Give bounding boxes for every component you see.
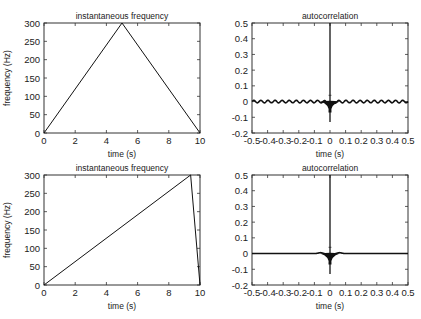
y-tick-label: 250 <box>24 36 40 47</box>
x-tick-label: 0.2 <box>355 135 368 146</box>
x-tick-label: -0.3 <box>275 287 291 298</box>
y-tick-label: 0.4 <box>235 33 248 44</box>
x-tick-label: -0.2 <box>291 287 307 298</box>
y-axis-label: frequency (Hz) <box>2 202 12 258</box>
chart-title: autocorrelation <box>302 163 359 173</box>
x-tick-label: 0 <box>41 287 46 298</box>
y-tick-label: -0.2 <box>232 128 248 139</box>
x-tick-label: 0 <box>41 135 46 146</box>
y-tick-label: 0.3 <box>235 49 248 60</box>
x-tick-label: -0.1 <box>306 287 322 298</box>
x-tick-label: 0.1 <box>339 287 352 298</box>
x-axis-label: time (s) <box>316 301 345 311</box>
x-tick-label: 6 <box>135 287 140 298</box>
x-tick-label: 0.1 <box>339 135 352 146</box>
y-tick-label: 0.1 <box>235 80 248 91</box>
x-tick-label: 0.3 <box>370 135 383 146</box>
x-tick-label: 8 <box>166 287 171 298</box>
x-tick-label: 2 <box>73 135 78 146</box>
autocorrelation-lobe <box>320 101 340 113</box>
y-tick-label: 0.5 <box>235 18 248 29</box>
y-tick-label: 0.2 <box>235 217 248 228</box>
y-axis-label: frequency (Hz) <box>2 50 12 106</box>
chart-panel-3: instantaneous frequency02468100501001502… <box>2 163 205 311</box>
x-tick-label: 0.3 <box>370 287 383 298</box>
y-tick-label: 0 <box>35 280 40 291</box>
x-tick-label: 0.5 <box>401 287 414 298</box>
x-tick-label: 4 <box>104 135 109 146</box>
x-tick-label: -0.4 <box>259 287 275 298</box>
x-axis-label: time (s) <box>316 149 345 159</box>
frequency-line <box>44 175 200 285</box>
y-tick-label: 0 <box>243 96 248 107</box>
x-tick-label: 0.4 <box>386 287 399 298</box>
chart-title: autocorrelation <box>302 11 359 21</box>
x-tick-label: 10 <box>195 287 206 298</box>
y-tick-label: 300 <box>24 170 40 181</box>
x-tick-label: 10 <box>195 135 206 146</box>
x-tick-label: 2 <box>73 287 78 298</box>
x-tick-label: -0.2 <box>291 135 307 146</box>
y-tick-label: 0 <box>35 128 40 139</box>
x-tick-label: 4 <box>104 287 109 298</box>
chart-title: instantaneous frequency <box>76 11 169 21</box>
plot-frame <box>44 175 200 285</box>
y-tick-label: -0.1 <box>232 112 248 123</box>
x-tick-label: 8 <box>166 135 171 146</box>
y-tick-label: 0.1 <box>235 232 248 243</box>
y-tick-label: 50 <box>29 261 40 272</box>
y-tick-label: 0.4 <box>235 185 248 196</box>
plot-frame <box>44 23 200 133</box>
chart-panel-2: autocorrelation-0.5-0.4-0.3-0.2-0.100.10… <box>232 11 415 159</box>
x-tick-label: -0.1 <box>306 135 322 146</box>
x-axis-label: time (s) <box>108 301 137 311</box>
x-tick-label: 0.4 <box>386 135 399 146</box>
y-tick-label: 250 <box>24 188 40 199</box>
y-tick-label: 50 <box>29 109 40 120</box>
x-tick-label: 0 <box>327 287 332 298</box>
x-tick-label: 0 <box>327 135 332 146</box>
frequency-line <box>44 23 200 133</box>
y-tick-label: 0.5 <box>235 170 248 181</box>
x-tick-label: 6 <box>135 135 140 146</box>
y-tick-label: 300 <box>24 18 40 29</box>
y-tick-label: -0.1 <box>232 264 248 275</box>
y-tick-label: 100 <box>24 243 40 254</box>
autocorrelation-lobe <box>320 253 340 265</box>
y-tick-label: 100 <box>24 91 40 102</box>
chart-panel-4: autocorrelation-0.5-0.4-0.3-0.2-0.100.10… <box>232 163 415 311</box>
y-tick-label: 150 <box>24 225 40 236</box>
y-tick-label: -0.2 <box>232 280 248 291</box>
y-tick-label: 150 <box>24 73 40 84</box>
y-tick-label: 0 <box>243 248 248 259</box>
chart-panel-1: instantaneous frequency02468100501001502… <box>2 11 205 159</box>
x-axis-label: time (s) <box>108 149 137 159</box>
chart-title: instantaneous frequency <box>76 163 169 173</box>
x-tick-label: -0.4 <box>259 135 275 146</box>
y-tick-label: 200 <box>24 206 40 217</box>
y-tick-label: 0.3 <box>235 201 248 212</box>
x-tick-label: 0.2 <box>355 287 368 298</box>
y-tick-label: 200 <box>24 54 40 65</box>
x-tick-label: 0.5 <box>401 135 414 146</box>
figure: instantaneous frequency02468100501001502… <box>0 0 421 319</box>
x-tick-label: -0.3 <box>275 135 291 146</box>
y-tick-label: 0.2 <box>235 65 248 76</box>
